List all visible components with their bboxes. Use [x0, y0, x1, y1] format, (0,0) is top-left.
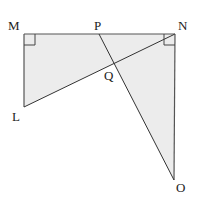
- label-n: N: [178, 18, 188, 33]
- label-l: L: [12, 109, 20, 124]
- label-q: Q: [104, 68, 114, 83]
- geometry-diagram: M P N Q L O: [0, 0, 197, 197]
- label-m: M: [8, 18, 20, 33]
- label-p: P: [94, 18, 101, 33]
- label-o: O: [176, 180, 185, 195]
